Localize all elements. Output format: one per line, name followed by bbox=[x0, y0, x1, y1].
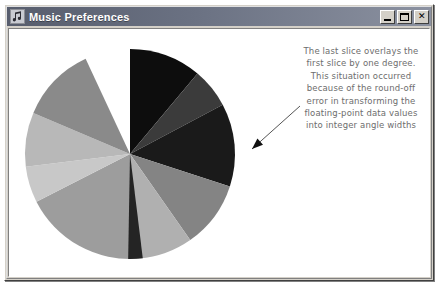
maximize-button[interactable] bbox=[397, 10, 412, 24]
close-icon: ✕ bbox=[415, 11, 428, 23]
annotation-line-7: into integer angle widths bbox=[281, 119, 430, 131]
minimize-button[interactable] bbox=[380, 10, 395, 24]
window-controls: ✕ bbox=[380, 10, 429, 24]
annotation-line-2: first slice by one degree. bbox=[281, 57, 430, 69]
annotation-line-5: error in transforming the bbox=[281, 95, 430, 107]
annotation-line-6: floating-point data values bbox=[281, 107, 430, 119]
window-title: Music Preferences bbox=[29, 11, 380, 23]
application-window: Music Preferences ✕ The last sli bbox=[4, 4, 434, 281]
annotation-text: The last slice overlays the first slice … bbox=[281, 45, 430, 132]
client-area: The last slice overlays the first slice … bbox=[8, 28, 430, 277]
close-button[interactable]: ✕ bbox=[414, 10, 429, 24]
title-bar[interactable]: Music Preferences ✕ bbox=[7, 7, 431, 26]
annotation-line-1: The last slice overlays the bbox=[281, 45, 430, 57]
annotation-line-3: This situation occurred bbox=[281, 70, 430, 82]
annotation-line-4: because of the round-off bbox=[281, 82, 430, 94]
maximize-icon bbox=[400, 13, 409, 21]
music-note-icon bbox=[10, 9, 25, 24]
minimize-icon bbox=[384, 19, 391, 21]
